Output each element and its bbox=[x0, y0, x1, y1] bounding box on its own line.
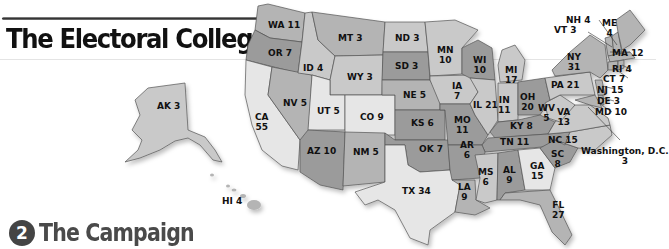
label-WI: WI10 bbox=[473, 55, 486, 75]
label-VT: VT 3 bbox=[554, 25, 577, 35]
label-MO-votes: 11 bbox=[456, 125, 469, 135]
label-AR-votes: 6 bbox=[464, 150, 470, 160]
label-UT: UT 5 bbox=[317, 106, 340, 116]
label-WI-votes: 10 bbox=[473, 65, 486, 75]
label-HI: HI 4 bbox=[222, 196, 242, 206]
label-SC: SC8 bbox=[551, 149, 564, 169]
label-IN: IN11 bbox=[498, 95, 511, 115]
label-SC-votes: 8 bbox=[554, 159, 560, 169]
label-MO-abbr: MO bbox=[454, 115, 471, 125]
label-OR: OR 7 bbox=[268, 48, 292, 58]
label-WV-abbr: WV bbox=[538, 103, 555, 113]
label-WY: WY 3 bbox=[347, 72, 373, 82]
label-RI: RI 4 bbox=[612, 64, 632, 74]
label-AK: AK 3 bbox=[157, 101, 180, 111]
label-MD: MD 10 bbox=[595, 107, 627, 117]
label-NJ: NJ 15 bbox=[597, 85, 624, 95]
label-WI-abbr: WI bbox=[473, 55, 486, 65]
label-MI-abbr: MI bbox=[505, 65, 517, 75]
label-NM: NM 5 bbox=[353, 147, 379, 157]
label-MS-votes: 6 bbox=[483, 177, 489, 187]
label-IN-abbr: IN bbox=[499, 95, 510, 105]
label-MS-abbr: MS bbox=[478, 167, 493, 177]
label-WV: WV5 bbox=[538, 103, 555, 123]
state-NM[interactable] bbox=[343, 132, 385, 186]
label-MI: MI17 bbox=[505, 65, 518, 85]
label-NE: NE 5 bbox=[403, 90, 426, 100]
state-AK[interactable] bbox=[125, 83, 222, 162]
label-DC: Washington, D.C.3 bbox=[581, 146, 669, 166]
label-MT: MT 3 bbox=[338, 33, 363, 43]
label-IA-votes: 7 bbox=[454, 91, 460, 101]
label-MO: MO11 bbox=[454, 115, 471, 135]
label-CT: CT 7 bbox=[603, 74, 625, 84]
label-AR-abbr: AR bbox=[460, 140, 474, 150]
label-MN-votes: 10 bbox=[439, 55, 452, 65]
label-AL-abbr: AL bbox=[503, 165, 516, 175]
label-ND: ND 3 bbox=[395, 33, 419, 43]
label-DC-votes: 3 bbox=[622, 156, 628, 166]
label-LA: LA9 bbox=[458, 182, 471, 202]
state-HI-island bbox=[232, 189, 237, 192]
label-AL-votes: 9 bbox=[506, 175, 512, 185]
label-WV-votes: 5 bbox=[543, 113, 549, 123]
label-VA: VA13 bbox=[557, 107, 570, 127]
label-VA-abbr: VA bbox=[557, 107, 570, 117]
label-KY: KY 8 bbox=[510, 121, 533, 131]
label-IN-votes: 11 bbox=[498, 105, 511, 115]
label-IA: IA7 bbox=[452, 81, 462, 101]
state-HI-island bbox=[226, 185, 230, 188]
label-SC-abbr: SC bbox=[551, 149, 564, 159]
label-OH-abbr: OH bbox=[520, 92, 535, 102]
label-GA: GA15 bbox=[530, 161, 544, 181]
label-SD: SD 3 bbox=[395, 61, 418, 71]
label-IA-abbr: IA bbox=[452, 81, 462, 91]
label-NC: NC 15 bbox=[548, 135, 578, 145]
state-HI[interactable] bbox=[247, 200, 261, 210]
label-OK: OK 7 bbox=[419, 144, 443, 154]
label-NY: NY31 bbox=[567, 52, 581, 72]
label-TN: TN 11 bbox=[500, 137, 529, 147]
label-AZ: AZ 10 bbox=[307, 146, 336, 156]
label-CA: CA55 bbox=[255, 112, 269, 132]
label-OH: OH20 bbox=[520, 92, 535, 112]
label-ME-abbr: ME bbox=[602, 18, 617, 28]
label-MN: MN10 bbox=[437, 45, 454, 65]
label-CO: CO 9 bbox=[360, 112, 384, 122]
label-GA-votes: 15 bbox=[531, 171, 544, 181]
state-ME[interactable] bbox=[616, 10, 645, 50]
label-TX: TX 34 bbox=[402, 186, 431, 196]
label-FL-votes: 27 bbox=[552, 210, 565, 220]
label-LA-abbr: LA bbox=[458, 182, 471, 192]
label-ME-votes: 4 bbox=[606, 28, 612, 38]
state-HI-island bbox=[210, 174, 214, 177]
label-ME: ME4 bbox=[602, 18, 617, 38]
label-IL: IL 21 bbox=[473, 100, 498, 110]
label-NV: NV 5 bbox=[283, 98, 307, 108]
label-FL: FL27 bbox=[552, 200, 565, 220]
label-MN-abbr: MN bbox=[437, 45, 454, 55]
label-MI-votes: 17 bbox=[505, 75, 518, 85]
label-MS: MS6 bbox=[478, 167, 493, 187]
label-PA: PA 21 bbox=[551, 80, 579, 90]
label-OH-votes: 20 bbox=[521, 102, 534, 112]
label-DC-name: Washington, D.C. bbox=[581, 146, 669, 156]
section-number-badge: 2 bbox=[9, 220, 35, 246]
label-WA: WA 11 bbox=[268, 20, 300, 30]
section-title: The Campaign bbox=[39, 218, 194, 247]
label-KS: KS 6 bbox=[411, 118, 434, 128]
label-CA-abbr: CA bbox=[255, 112, 269, 122]
label-NY-abbr: NY bbox=[567, 52, 581, 62]
label-MA: MA 12 bbox=[612, 48, 644, 58]
label-ID: ID 4 bbox=[303, 63, 323, 73]
label-VA-votes: 13 bbox=[557, 117, 570, 127]
label-NY-votes: 31 bbox=[568, 62, 581, 72]
label-NH: NH 4 bbox=[566, 15, 590, 25]
label-DE: DE 3 bbox=[597, 96, 620, 106]
section-heading: 2 The Campaign bbox=[9, 218, 228, 247]
state-AZ[interactable] bbox=[300, 130, 345, 190]
label-AL: AL9 bbox=[503, 165, 516, 185]
label-LA-votes: 9 bbox=[461, 192, 467, 202]
label-CA-votes: 55 bbox=[256, 122, 269, 132]
label-FL-abbr: FL bbox=[552, 200, 564, 210]
